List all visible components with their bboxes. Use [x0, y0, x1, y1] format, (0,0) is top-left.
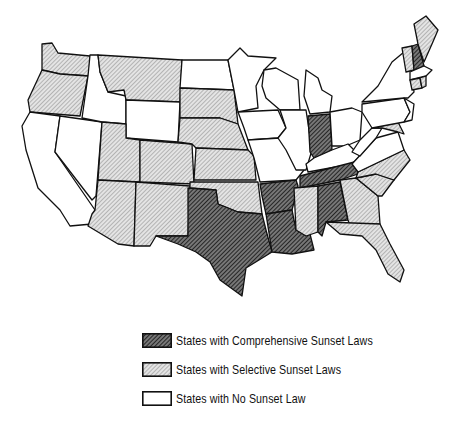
legend-label-none: States with No Sunset Law [176, 391, 305, 406]
dark-hatch-swatch-icon [142, 333, 172, 348]
state-mississippi [294, 186, 318, 236]
empty-swatch-icon [142, 391, 172, 406]
us-sunset-law-map [0, 0, 461, 300]
state-arkansas [260, 180, 298, 214]
state-kansas [194, 148, 256, 180]
legend-item-none: States with No Sunset Law [142, 384, 416, 413]
state-michigan [304, 70, 332, 114]
state-ohio [330, 108, 362, 146]
legend-label-selective: States with Selective Sunset Laws [176, 362, 341, 377]
state-colorado [140, 140, 194, 184]
light-hatch-swatch-icon [142, 362, 172, 377]
states-layer [22, 16, 438, 296]
state-iowa [238, 110, 286, 140]
legend-item-comprehensive: States with Comprehensive Sunset Laws [142, 326, 416, 355]
legend-label-comprehensive: States with Comprehensive Sunset Laws [176, 333, 373, 348]
state-north-dakota [180, 60, 234, 90]
legend-item-selective: States with Selective Sunset Laws [142, 355, 416, 384]
map-legend: States with Comprehensive Sunset Laws St… [142, 326, 416, 413]
state-pennsylvania [362, 98, 410, 128]
state-florida [326, 222, 404, 282]
state-wyoming [126, 100, 180, 142]
state-oregon [28, 70, 88, 116]
state-wisconsin [262, 68, 300, 110]
